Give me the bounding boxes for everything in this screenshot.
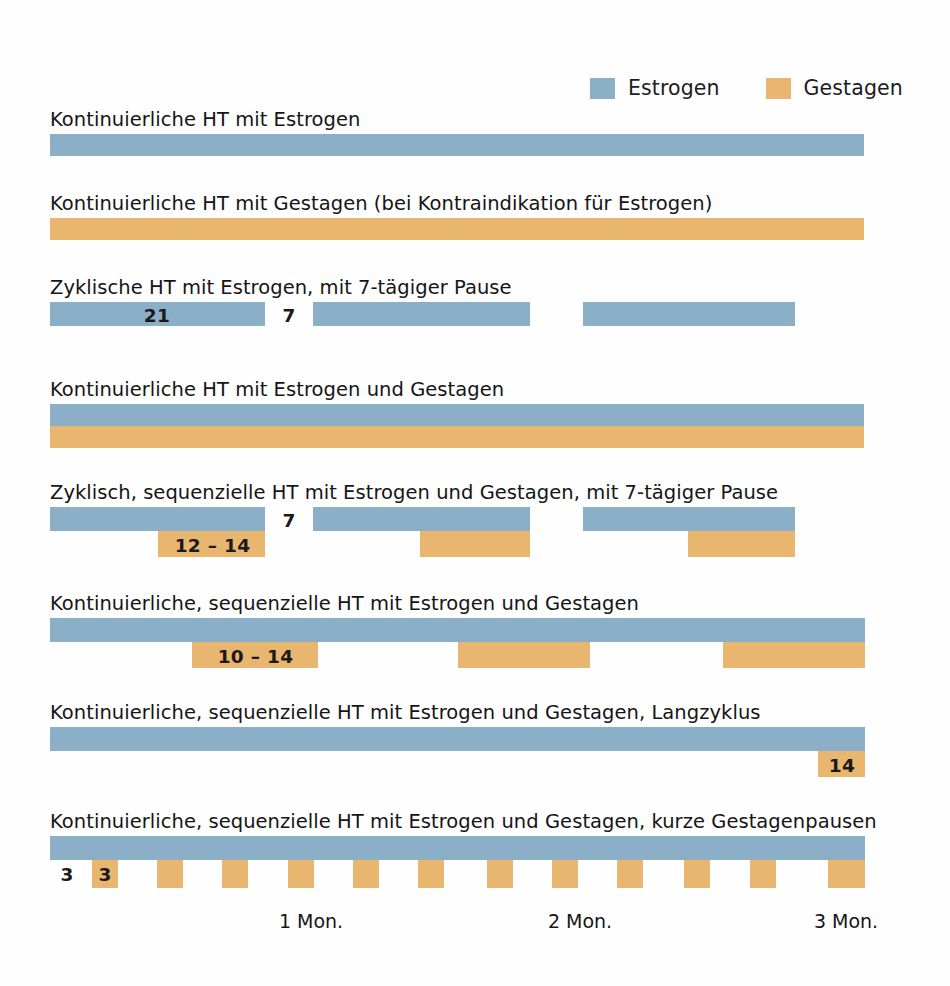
regimen-track: 33 — [0, 836, 950, 900]
x-axis-tick-label: 1 Mon. — [279, 910, 343, 932]
estrogen-segment — [50, 618, 865, 642]
legend-label: Gestagen — [804, 76, 903, 100]
gestagen-segment — [684, 860, 710, 888]
duration-annotation: 14 — [821, 755, 863, 776]
gestagen-segment — [157, 860, 183, 888]
regimen-label: Kontinuierliche, sequenzielle HT mit Est… — [50, 592, 639, 615]
estrogen-segment — [50, 727, 865, 751]
regimen-track — [0, 404, 950, 468]
estrogen-segment — [583, 302, 795, 326]
estrogen-segment — [50, 836, 865, 860]
regimen-track: 10 – 14 — [0, 618, 950, 682]
regimen-label: Zyklische HT mit Estrogen, mit 7-tägiger… — [50, 276, 512, 299]
gestagen-segment — [50, 218, 864, 240]
estrogen-segment — [313, 507, 530, 531]
gestagen-segment — [222, 860, 248, 888]
gestagen-segment — [552, 860, 578, 888]
duration-annotation: 3 — [51, 864, 83, 885]
gestagen-segment — [750, 860, 776, 888]
chart-canvas: EstrogenGestagen Kontinuierliche HT mit … — [0, 0, 950, 986]
regimen-label: Zyklisch, sequenzielle HT mit Estrogen u… — [50, 481, 778, 504]
legend-entry-estrogen: Estrogen — [590, 76, 720, 100]
gestagen-segment — [828, 860, 865, 888]
regimen-label: Kontinuierliche HT mit Estrogen und Gest… — [50, 378, 504, 401]
regimen-track — [0, 218, 950, 282]
gestagen-segment — [688, 531, 795, 557]
gestagen-segment — [487, 860, 513, 888]
duration-annotation: 10 – 14 — [208, 646, 303, 667]
gestagen-segment — [458, 642, 590, 668]
chart-legend: EstrogenGestagen — [590, 76, 903, 100]
duration-annotation: 21 — [137, 305, 177, 326]
regimen-label: Kontinuierliche, sequenzielle HT mit Est… — [50, 701, 761, 724]
x-axis-tick-label: 3 Mon. — [814, 910, 878, 932]
legend-entry-gestagen: Gestagen — [766, 76, 903, 100]
estrogen-segment — [50, 507, 265, 531]
gestagen-segment — [418, 860, 444, 888]
gestagen-segment — [617, 860, 643, 888]
estrogen-segment — [583, 507, 795, 531]
duration-annotation: 12 – 14 — [165, 535, 260, 556]
regimen-label: Kontinuierliche HT mit Estrogen — [50, 108, 360, 131]
gestagen-segment — [420, 531, 530, 557]
gestagen-segment — [353, 860, 379, 888]
gestagen-segment — [50, 426, 864, 448]
gestagen-segment — [723, 642, 865, 668]
regimen-track — [0, 134, 950, 198]
regimen-label: Kontinuierliche HT mit Gestagen (bei Kon… — [50, 192, 712, 215]
legend-swatch-gestagen — [766, 78, 791, 99]
duration-annotation: 7 — [269, 305, 309, 326]
estrogen-segment — [50, 134, 864, 156]
regimen-label: Kontinuierliche, sequenzielle HT mit Est… — [50, 810, 877, 833]
regimen-track: 217 — [0, 302, 950, 366]
legend-label: Estrogen — [628, 76, 720, 100]
x-axis-tick-label: 2 Mon. — [548, 910, 612, 932]
gestagen-segment — [288, 860, 314, 888]
duration-annotation: 7 — [269, 510, 309, 531]
estrogen-segment — [50, 404, 864, 426]
legend-swatch-estrogen — [590, 78, 615, 99]
estrogen-segment — [313, 302, 530, 326]
regimen-track: 14 — [0, 727, 950, 791]
regimen-track: 12 – 147 — [0, 507, 950, 571]
duration-annotation: 3 — [91, 864, 119, 885]
